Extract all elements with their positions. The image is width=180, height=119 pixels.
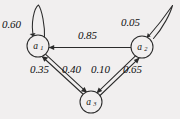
self-loop-a1-path	[32, 5, 44, 38]
weight-label-a3-a1: 0.35	[30, 64, 49, 75]
node-a1-subscript: 1	[40, 44, 43, 51]
weight-label-a3-a2: 0.65	[123, 64, 142, 75]
node-a3-circle[interactable]	[80, 91, 102, 113]
state-transition-diagram: a 1 a 2 a 3 0.60 0.05 0.85 0.35 0.40 0.1…	[0, 0, 180, 119]
self-loop-a2-path	[148, 6, 173, 39]
self-loop-a2	[147, 6, 173, 39]
self-loop-a1	[30, 5, 45, 38]
edge-a2-to-a1	[49, 45, 131, 50]
node-a1-circle[interactable]	[27, 35, 49, 57]
node-a3-label: a	[86, 97, 91, 107]
graph-canvas: a 1 a 2 a 3	[0, 0, 180, 119]
node-a1-label: a	[33, 41, 38, 51]
node-a3[interactable]: a 3	[80, 91, 102, 113]
node-a2-label: a	[137, 42, 142, 52]
node-a2-circle[interactable]	[131, 36, 153, 58]
node-a1[interactable]: a 1	[27, 35, 49, 57]
weight-label-a2-self: 0.05	[121, 17, 140, 28]
node-a2[interactable]: a 2	[131, 36, 153, 58]
weight-label-a1-a3: 0.40	[62, 64, 81, 75]
weight-label-a2-a3: 0.10	[91, 64, 110, 75]
weight-label-a1-self: 0.60	[2, 19, 21, 30]
node-a3-subscript: 3	[92, 100, 96, 107]
weight-label-a2-a1: 0.85	[78, 30, 97, 41]
